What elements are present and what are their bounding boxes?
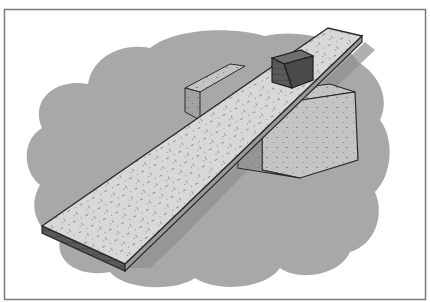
illustration-frame: Inclined plane with block <box>0 0 430 302</box>
inclined-plane-illustration <box>0 0 430 302</box>
small-cube <box>272 50 313 88</box>
